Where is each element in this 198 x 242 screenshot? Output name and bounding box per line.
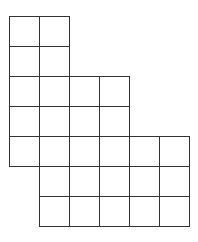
grid-cell — [69, 136, 100, 167]
grid-cell — [69, 166, 100, 197]
grid-cell — [99, 106, 130, 137]
grid-cell — [159, 166, 190, 197]
polyomino-grid — [0, 0, 198, 242]
grid-cell — [129, 196, 160, 227]
grid-cell — [99, 196, 130, 227]
grid-cell — [39, 76, 70, 107]
grid-cell — [99, 166, 130, 197]
grid-cell — [9, 136, 40, 167]
grid-cell — [39, 16, 70, 47]
grid-cell — [39, 106, 70, 137]
grid-cell — [69, 106, 100, 137]
grid-cell — [99, 136, 130, 167]
grid-cell — [69, 196, 100, 227]
grid-cell — [9, 16, 40, 47]
grid-cell — [39, 196, 70, 227]
grid-cell — [9, 106, 40, 137]
grid-cell — [39, 46, 70, 77]
grid-cell — [99, 76, 130, 107]
grid-cell — [9, 46, 40, 77]
grid-cell — [129, 166, 160, 197]
grid-cell — [9, 76, 40, 107]
grid-cell — [69, 76, 100, 107]
grid-cell — [39, 136, 70, 167]
grid-cell — [129, 136, 160, 167]
grid-cell — [39, 166, 70, 197]
grid-cell — [159, 136, 190, 167]
grid-cell — [159, 196, 190, 227]
